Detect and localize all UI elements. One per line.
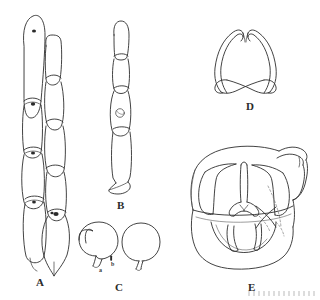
figure-c-sublabel-b: b bbox=[111, 261, 114, 267]
figure-label-d: D bbox=[246, 100, 254, 112]
figure-e-genital-capsule bbox=[191, 146, 308, 269]
figure-label-a: A bbox=[36, 276, 44, 288]
plate-drawing bbox=[0, 0, 320, 300]
figure-c-spores bbox=[79, 222, 160, 271]
figure-c-sublabel-a: a bbox=[99, 267, 102, 273]
illustration-plate: A B C D E a b bbox=[0, 0, 320, 300]
figure-label-c: C bbox=[115, 281, 123, 293]
figure-b-chain bbox=[109, 21, 132, 194]
figure-label-b: B bbox=[117, 199, 125, 211]
figure-label-e: E bbox=[248, 281, 256, 293]
figure-d-crossed-appendages bbox=[215, 30, 277, 93]
